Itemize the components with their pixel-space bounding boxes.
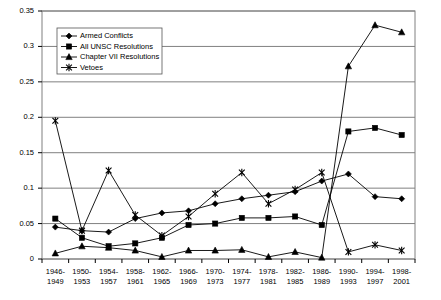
data-point-square [79,235,84,240]
legend-item-label: Armed Conflicts [80,31,133,40]
data-point-square [66,44,71,49]
y-axis-label: 0.15 [4,148,34,157]
legend-item-label: Vetoes [80,63,103,72]
x-axis-label: 1998-2001 [385,267,419,287]
chart-canvas [0,0,441,300]
data-point-square [239,215,244,220]
line-chart: 00.050.10.150.20.250.30.35 1946-19491950… [0,0,441,300]
y-axis-label: 0.2 [4,112,34,121]
legend-item-label: Chapter VII Resolutions [80,52,159,61]
data-point-square [266,215,271,220]
data-point-square [399,132,404,137]
legend-item-label: All UNSC Resolutions [80,42,153,51]
data-point-square [319,222,324,227]
data-point-square [133,241,138,246]
y-axis-label: 0 [4,254,34,263]
y-axis-label: 0.3 [4,41,34,50]
y-axis-label: 0.25 [4,77,34,86]
y-axis-label: 0.1 [4,183,34,192]
y-axis-label: 0.35 [4,6,34,15]
y-axis-label: 0.05 [4,219,34,228]
data-point-square [372,125,377,130]
data-point-square [186,222,191,227]
data-point-square [346,129,351,134]
data-point-square [213,221,218,226]
data-point-square [53,216,58,221]
data-point-square [293,214,298,219]
